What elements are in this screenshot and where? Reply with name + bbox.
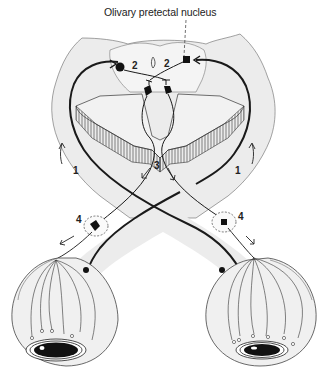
label-3: 3: [154, 160, 160, 171]
pretectal-neuron-right: [183, 56, 190, 63]
eyeball-left: [12, 258, 118, 366]
pupil-right: [244, 344, 280, 356]
pretectal-neuron-left: [116, 63, 125, 72]
optic-nerve-junction-right: [219, 267, 225, 273]
arrow-down-right-4-icon: [246, 236, 254, 244]
pupillary-light-reflex-diagram: 1 1 2 2 3 4 4: [0, 0, 326, 370]
eyeball-right: [206, 258, 316, 366]
pupil-left: [34, 343, 78, 358]
optic-nerve-junction-left: [83, 267, 89, 273]
label-4-left: 4: [76, 214, 82, 225]
label-2-right: 2: [164, 58, 170, 69]
arrow-down-left-4-icon: [60, 236, 74, 245]
label-1-right: 1: [235, 165, 241, 176]
label-2-left: 2: [132, 60, 138, 71]
label-1-left: 1: [73, 165, 79, 176]
ciliary-ganglion-neuron-right: [221, 219, 227, 225]
label-4-right: 4: [238, 211, 244, 222]
